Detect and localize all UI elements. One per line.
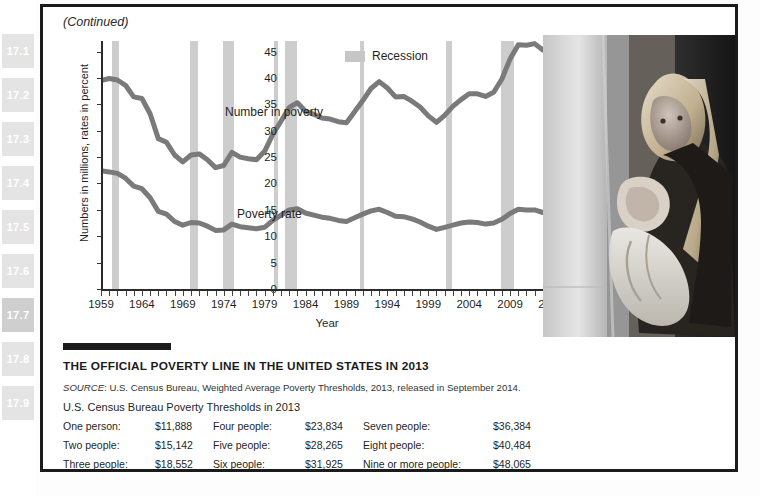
x-tick-mark bbox=[224, 291, 225, 296]
x-tick-label: 1989 bbox=[334, 298, 360, 310]
threshold-label: Six people: bbox=[213, 458, 305, 470]
y-tick-mark bbox=[97, 157, 101, 158]
x-tick-mark bbox=[371, 291, 372, 296]
y-tick-mark bbox=[97, 183, 101, 184]
source-text: : U.S. Census Bureau, Weighted Average P… bbox=[104, 382, 521, 393]
chapter-tab-label: 17.7 bbox=[7, 309, 30, 321]
info-box: THE OFFICIAL POVERTY LINE IN THE UNITED … bbox=[63, 343, 723, 470]
chapter-tab-label: 17.6 bbox=[7, 265, 30, 277]
x-tick-mark bbox=[289, 291, 290, 296]
x-tick-mark bbox=[191, 291, 192, 296]
x-tick-mark bbox=[248, 291, 249, 296]
x-tick-label: 1994 bbox=[375, 298, 401, 310]
recession-swatch-icon bbox=[345, 51, 365, 62]
threshold-row: Three people:$18,552 bbox=[63, 458, 213, 470]
chart-legend: Recession bbox=[345, 49, 428, 63]
chapter-tab-label: 17.5 bbox=[7, 221, 30, 233]
chapter-tab-17-3[interactable]: 17.3 bbox=[2, 122, 34, 156]
threshold-label: Eight people: bbox=[363, 439, 493, 451]
series-lines bbox=[101, 41, 551, 289]
source-label: SOURCE bbox=[63, 382, 104, 393]
x-tick-mark bbox=[518, 291, 519, 296]
x-tick-mark bbox=[134, 291, 135, 296]
x-tick-mark bbox=[199, 291, 200, 296]
x-tick-mark bbox=[117, 291, 118, 296]
x-tick-mark bbox=[183, 291, 184, 296]
x-tick-label: 1984 bbox=[293, 298, 319, 310]
chapter-tab-17-2[interactable]: 17.2 bbox=[2, 78, 34, 112]
chapter-tab-17-6[interactable]: 17.6 bbox=[2, 254, 34, 288]
threshold-label: Five people: bbox=[213, 439, 305, 451]
x-tick-mark bbox=[158, 291, 159, 296]
threshold-row: Seven people:$36,384 bbox=[363, 420, 583, 432]
threshold-label: Four people: bbox=[213, 420, 305, 432]
y-axis-title: Numbers in millions, rates in percent bbox=[78, 48, 90, 258]
x-tick-mark bbox=[306, 291, 307, 296]
x-tick-mark bbox=[150, 291, 151, 296]
y-tick-mark bbox=[97, 289, 101, 290]
chapter-tab-17-7[interactable]: 17.7 bbox=[2, 298, 34, 332]
x-tick-label: 1979 bbox=[252, 298, 278, 310]
y-tick-mark bbox=[97, 131, 101, 132]
threshold-label: Nine or more people: bbox=[363, 458, 493, 470]
x-tick-label: 1974 bbox=[211, 298, 237, 310]
x-tick-mark bbox=[355, 291, 356, 296]
threshold-row: Eight people:$40,484 bbox=[363, 439, 583, 451]
y-tick-label: 45 bbox=[237, 46, 277, 58]
y-tick-mark bbox=[97, 78, 101, 79]
threshold-label: Seven people: bbox=[363, 420, 493, 432]
series-line bbox=[101, 43, 551, 168]
x-tick-mark bbox=[494, 291, 495, 296]
x-tick-mark bbox=[166, 291, 167, 296]
chapter-tab-17-9[interactable]: 17.9 bbox=[2, 386, 34, 420]
chapter-tab-17-4[interactable]: 17.4 bbox=[2, 166, 34, 200]
x-tick-label: 1999 bbox=[415, 298, 441, 310]
continued-label: (Continued) bbox=[63, 15, 128, 29]
x-tick-mark bbox=[240, 291, 241, 296]
box-source: SOURCE: U.S. Census Bureau, Weighted Ave… bbox=[63, 382, 723, 393]
threshold-value: $18,552 bbox=[155, 458, 193, 470]
threshold-value: $48,065 bbox=[493, 458, 531, 470]
chapter-tab-17-5[interactable]: 17.5 bbox=[2, 210, 34, 244]
threshold-value: $15,142 bbox=[155, 439, 193, 451]
threshold-label: Three people: bbox=[63, 458, 155, 470]
x-tick-mark bbox=[396, 291, 397, 296]
chapter-tab-label: 17.9 bbox=[7, 397, 30, 409]
x-tick-mark bbox=[330, 291, 331, 296]
threshold-value: $40,484 bbox=[493, 439, 531, 451]
x-tick-mark bbox=[232, 291, 233, 296]
chapter-tab-label: 17.8 bbox=[7, 353, 30, 365]
legend-label-recession: Recession bbox=[372, 49, 428, 63]
x-tick-mark bbox=[175, 291, 176, 296]
box-title: THE OFFICIAL POVERTY LINE IN THE UNITED … bbox=[63, 359, 723, 373]
x-tick-mark bbox=[477, 291, 478, 296]
plot-area bbox=[101, 41, 551, 289]
threshold-value: $36,384 bbox=[493, 420, 531, 432]
x-tick-mark bbox=[109, 291, 110, 296]
x-tick-mark bbox=[297, 291, 298, 296]
threshold-value: $11,888 bbox=[155, 420, 192, 432]
x-tick-mark bbox=[535, 291, 536, 296]
x-tick-mark bbox=[273, 291, 274, 296]
y-tick-mark bbox=[97, 263, 101, 264]
x-tick-mark bbox=[322, 291, 323, 296]
x-axis-title: Year bbox=[101, 317, 553, 329]
x-tick-mark bbox=[346, 291, 347, 296]
chapter-tab-label: 17.4 bbox=[7, 177, 30, 189]
y-tick-label: 25 bbox=[237, 151, 277, 163]
x-tick-mark bbox=[281, 291, 282, 296]
chapter-tab-label: 17.3 bbox=[7, 133, 30, 145]
x-tick-mark bbox=[510, 291, 511, 296]
x-tick-mark bbox=[486, 291, 487, 296]
x-tick-mark bbox=[412, 291, 413, 296]
x-tick-mark bbox=[445, 291, 446, 296]
x-tick-mark bbox=[379, 291, 380, 296]
threshold-value: $23,834 bbox=[305, 420, 343, 432]
x-tick-mark bbox=[526, 291, 527, 296]
box-rule-divider bbox=[63, 343, 171, 350]
x-tick-mark bbox=[436, 291, 437, 296]
y-tick-mark bbox=[97, 104, 101, 105]
chapter-tab-17-1[interactable]: 17.1 bbox=[2, 34, 34, 68]
figure-content: (Continued) Numbers in millions, rates i… bbox=[49, 7, 735, 469]
chapter-tab-17-8[interactable]: 17.8 bbox=[2, 342, 34, 376]
